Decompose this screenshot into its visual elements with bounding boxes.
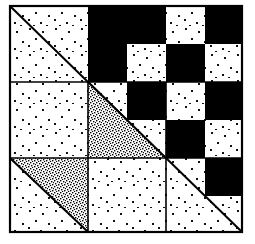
block-r2c2-quadrant-tr-black — [127, 82, 166, 120]
quilt-pattern-svg — [0, 0, 255, 244]
block-r1c1-quadrant-black — [88, 6, 127, 44]
quilt-figure — [0, 0, 255, 244]
block-r1c3-quadrant-bl-black — [166, 44, 205, 82]
block-r1c3-quadrant-tr-black — [205, 6, 242, 44]
block-r3c3-quadrant-tr-black — [205, 158, 242, 196]
block-r1c2-quadrant-bl-black — [88, 44, 127, 82]
block-r2c2 — [88, 82, 166, 158]
block-r2c3-quadrant-tr-black — [205, 82, 242, 120]
block-r2c3-quadrant-bl-black — [166, 120, 205, 158]
block-r1c2-quadrant-tr-black — [127, 6, 166, 44]
quilt-body — [10, 6, 242, 232]
